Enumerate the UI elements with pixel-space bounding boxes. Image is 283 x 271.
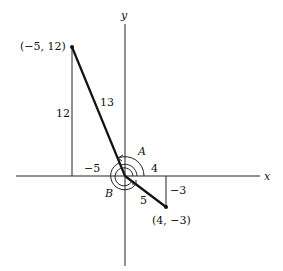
label-13: 13 — [100, 96, 114, 109]
angle-b-arc — [115, 168, 133, 186]
y-axis-label: y — [120, 9, 128, 22]
point-label-neg5-12: (−5, 12) — [20, 40, 66, 53]
angle-label-b: B — [104, 187, 113, 200]
point-neg5-12 — [70, 45, 74, 49]
angle-label-a: A — [137, 145, 146, 158]
label-5: 5 — [140, 194, 147, 207]
label-neg5: −5 — [84, 162, 100, 175]
label-neg3: −3 — [170, 184, 186, 197]
diagram-canvas: x y (−5, 12) (4, −3) 13 12 −5 4 −3 5 A B — [0, 0, 283, 271]
label-4: 4 — [151, 162, 158, 175]
x-axis-label: x — [264, 170, 271, 183]
label-12: 12 — [56, 107, 70, 120]
point-4-neg3 — [164, 205, 168, 209]
terminal-side-a — [72, 47, 125, 176]
point-label-4-neg3: (4, −3) — [152, 214, 191, 227]
